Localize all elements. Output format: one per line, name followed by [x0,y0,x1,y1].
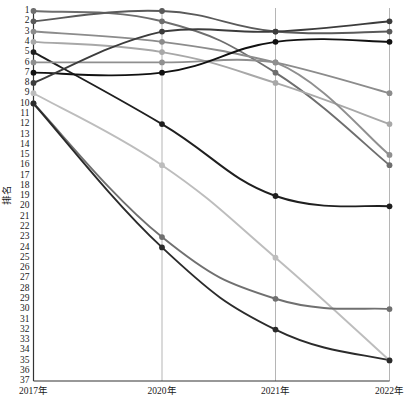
y-tick-label-10: 10 [20,98,30,108]
data-point-s6-2020年 [159,59,165,65]
x-tick-label-2021年: 2021年 [261,385,290,396]
y-tick-label-4: 4 [25,36,30,46]
y-tick-label-30: 30 [20,303,30,313]
y-tick-label-24: 24 [20,242,30,252]
data-point-s9-2017年 [31,90,37,96]
y-tick-label-29: 29 [20,293,30,303]
data-point-s7-2021年 [273,39,279,45]
data-point-s1-2021年 [273,70,279,76]
rank-line-chart: 1234567891011121314151617181920212223242… [0,0,417,410]
y-tick-label-34: 34 [20,344,30,354]
data-point-s3-2020年 [159,39,165,45]
data-point-s5-2020年 [159,121,165,127]
y-tick-label-19: 19 [20,190,30,200]
data-point-s1-2017年 [31,8,37,14]
data-point-s10-2020年 [159,234,165,240]
data-point-s11-2017年 [31,101,37,107]
y-tick-label-35: 35 [20,355,30,365]
x-tick-label-2022年: 2022年 [375,385,404,396]
data-point-s7-2022年 [387,39,393,45]
y-tick-label-36: 36 [20,365,30,375]
y-tick-label-17: 17 [20,170,30,180]
y-tick-label-25: 25 [20,252,30,262]
y-tick-label-15: 15 [20,149,30,159]
chart-container: 1234567891011121314151617181920212223242… [0,0,417,410]
data-point-s2-2020年 [159,8,165,14]
x-tick-label-2020年: 2020年 [148,385,177,396]
data-point-s5-2017年 [31,49,37,55]
data-point-s5-2022年 [387,203,393,209]
data-point-s5-2021年 [273,193,279,199]
y-tick-label-26: 26 [20,262,30,272]
data-point-s4-2017年 [31,39,37,45]
y-tick-label-3: 3 [25,26,30,36]
data-point-s11-2022年 [387,358,393,364]
y-tick-label-9: 9 [25,87,30,97]
y-tick-label-14: 14 [20,139,30,149]
data-point-s10-2021年 [273,296,279,302]
y-tick-label-21: 21 [20,211,30,221]
y-tick-label-31: 31 [20,314,30,324]
y-tick-label-33: 33 [20,334,30,344]
y-tick-label-2: 2 [25,15,30,25]
y-tick-label-8: 8 [25,77,30,87]
data-point-s8-2020年 [159,29,165,35]
y-tick-label-5: 5 [25,46,30,56]
y-tick-label-20: 20 [20,200,30,210]
y-tick-label-28: 28 [20,283,30,293]
data-point-s6-2022年 [387,152,393,158]
data-point-s11-2021年 [273,327,279,333]
y-tick-label-18: 18 [20,180,30,190]
y-tick-label-11: 11 [20,108,29,118]
data-point-s3-2022年 [387,90,393,96]
data-point-s3-2017年 [31,29,37,35]
data-point-s2-2022年 [387,29,393,35]
data-point-s7-2020年 [159,70,165,76]
y-tick-label-13: 13 [20,129,30,139]
data-point-s1-2020年 [159,18,165,24]
x-tick-label-2017年: 2017年 [19,385,48,396]
y-tick-label-27: 27 [20,272,30,282]
y-tick-label-16: 16 [20,159,30,169]
y-tick-label-12: 12 [20,118,30,128]
y-tick-label-32: 32 [20,324,30,334]
y-tick-label-7: 7 [25,67,30,77]
y-tick-label-23: 23 [20,231,30,241]
data-point-s4-2021年 [273,80,279,86]
data-point-s10-2022年 [387,306,393,312]
y-tick-label-37: 37 [20,375,30,385]
y-tick-label-1: 1 [25,5,30,15]
data-point-s11-2020年 [159,244,165,250]
data-point-s8-2017年 [31,80,37,86]
data-point-s4-2020年 [159,49,165,55]
y-axis-title: 排名 [1,185,12,205]
data-point-s8-2021年 [273,29,279,35]
data-point-s4-2022年 [387,121,393,127]
data-point-s6-2021年 [273,59,279,65]
y-tick-label-22: 22 [20,221,30,231]
data-point-s9-2020年 [159,162,165,168]
data-point-s9-2021年 [273,255,279,261]
data-point-s8-2022年 [387,18,393,24]
data-point-s7-2017年 [31,70,37,76]
data-point-s6-2017年 [31,59,37,65]
data-point-s1-2022年 [387,162,393,168]
data-point-s2-2017年 [31,18,37,24]
y-tick-label-6: 6 [25,57,30,67]
